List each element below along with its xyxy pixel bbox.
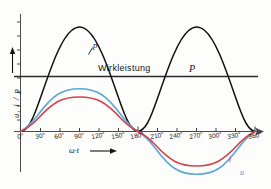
label-p-instantaneous-power: p (93, 41, 98, 50)
label-P-active-power: P (189, 64, 195, 74)
power-waveform-figure: p Wirkleistung P i u u, i / p ω·t 0° 30°… (0, 0, 271, 189)
y-axis-label: u, i / p (11, 88, 21, 118)
y-axis-arrow-icon (10, 47, 15, 73)
annotation-wirkleistung: Wirkleistung (98, 63, 151, 73)
x-axis-label-arrow-icon (90, 146, 120, 156)
p-label-leader (89, 48, 93, 55)
label-i-current: i (229, 156, 231, 164)
xtick-label-0: 0° (17, 133, 24, 140)
x-axis-label: ω·t (69, 146, 79, 155)
curve-p-instantaneous-power (21, 27, 256, 132)
label-u-voltage: u (240, 169, 244, 177)
